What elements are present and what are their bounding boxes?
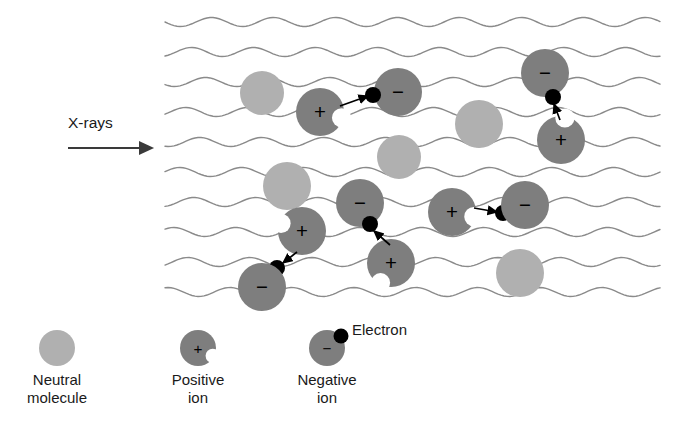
negative-ion: − — [501, 181, 549, 229]
legend-label-line1: Neutral — [33, 371, 81, 388]
negative-charge-glyph: − — [539, 62, 551, 84]
neutral-molecule — [377, 135, 421, 179]
xray-wave-line — [165, 48, 660, 57]
diagram-canvas: +−−+−+++−− X-rays Neutralmolecule+Positi… — [0, 0, 680, 445]
electron-callout-label: Electron — [352, 321, 407, 338]
legend-label-line2: molecule — [27, 389, 87, 406]
negative-charge-glyph: − — [256, 276, 268, 298]
ejection-notch — [371, 273, 390, 292]
negative-charge-glyph: − — [519, 194, 531, 216]
ejection-notch — [555, 108, 574, 127]
particle-field: +−−+−+++−− — [238, 49, 585, 311]
particle-body — [496, 249, 544, 297]
electron-callout: Electron — [352, 321, 407, 338]
electron-dot — [365, 87, 381, 103]
legend-label-line1: Positive — [172, 371, 225, 388]
legend-item-neutral-molecule: Neutralmolecule — [27, 330, 87, 406]
electron — [545, 89, 561, 105]
negative-ion: − — [238, 263, 286, 311]
neutral-molecule — [39, 330, 75, 366]
positive-ion: + — [180, 330, 220, 366]
xray-wave-line — [165, 228, 660, 237]
negative-ion: − — [521, 49, 569, 97]
positive-charge-glyph: + — [194, 340, 203, 357]
neutral-molecule — [496, 249, 544, 297]
legend-item-positive-ion: +Positiveion — [172, 330, 225, 406]
positive-ion: + — [271, 207, 326, 255]
ejection-notch — [271, 214, 290, 233]
xray-wave-line — [165, 198, 660, 207]
positive-ion: + — [367, 239, 415, 292]
ejection-notch — [332, 108, 351, 127]
legend-label-line2: ion — [188, 389, 208, 406]
electron-transfer-arrow — [340, 96, 368, 106]
ejection-notch — [206, 349, 220, 363]
legend: Neutralmolecule+Positiveion−Negativeion — [27, 329, 357, 407]
xray-label: X-rays — [68, 114, 113, 131]
positive-ion: + — [296, 88, 351, 136]
electron-transfer-arrow — [283, 252, 297, 263]
particle-body — [263, 162, 311, 210]
negative-charge-glyph: − — [323, 340, 332, 357]
particle-body — [240, 71, 284, 115]
positive-charge-glyph: + — [385, 252, 397, 274]
legend-item-negative-ion: −Negativeion — [297, 329, 356, 407]
neutral-molecule — [455, 100, 503, 148]
positive-charge-glyph: + — [446, 201, 458, 223]
positive-charge-glyph: + — [555, 129, 567, 151]
neutral-molecule — [263, 162, 311, 210]
negative-charge-glyph: − — [392, 81, 404, 103]
legend-label-line2: ion — [317, 389, 337, 406]
xray-beam-annotation: X-rays — [68, 114, 152, 148]
negative-ion: − — [374, 68, 422, 116]
particle-body — [455, 100, 503, 148]
electron-dot — [362, 216, 378, 232]
legend-electron-dot — [334, 329, 349, 344]
xray-wave-line — [165, 18, 660, 27]
positive-ion: + — [537, 108, 585, 164]
electron — [365, 87, 381, 103]
particle-body — [39, 330, 75, 366]
particle-body — [377, 135, 421, 179]
positive-charge-glyph: + — [314, 101, 326, 123]
electron — [362, 216, 378, 232]
negative-charge-glyph: − — [354, 192, 366, 214]
positive-charge-glyph: + — [296, 220, 308, 242]
electron-dot — [545, 89, 561, 105]
ionization-diagram: +−−+−+++−− X-rays Neutralmolecule+Positi… — [0, 0, 680, 445]
legend-label-line1: Negative — [297, 371, 356, 388]
neutral-molecule — [240, 71, 284, 115]
